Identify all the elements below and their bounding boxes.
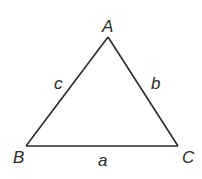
vertex-label-c: C — [182, 148, 195, 167]
side-c-line — [26, 37, 108, 146]
side-label-a: a — [98, 151, 107, 170]
side-b-line — [108, 37, 178, 146]
side-label-b: b — [151, 74, 160, 93]
side-label-c: c — [54, 74, 63, 93]
vertex-label-a: A — [101, 17, 113, 36]
vertex-label-b: B — [13, 148, 24, 167]
triangle-diagram: A B C c b a — [0, 0, 202, 179]
